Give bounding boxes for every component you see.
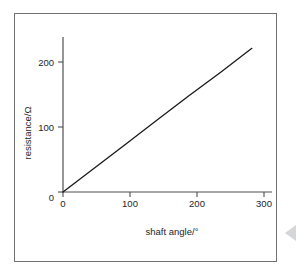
x-axis-title: shaft angle/° [146,226,199,237]
left-triangle-icon [285,225,296,241]
x-tick-label-100: 100 [122,198,138,209]
y-tick-label-0: 0 [49,192,54,203]
x-tick-label-0: 0 [60,198,65,209]
y-tick-label-200: 200 [38,57,54,68]
x-tick-label-200: 200 [189,198,205,209]
y-axis-title: resistance/Ω [22,106,33,159]
chart-plot: 0 100 200 300 0 100 200 shaft angle/° re… [0,0,305,275]
y-tick-label-100: 100 [38,122,54,133]
x-tick-label-300: 300 [256,198,272,209]
data-series-line [63,48,252,192]
